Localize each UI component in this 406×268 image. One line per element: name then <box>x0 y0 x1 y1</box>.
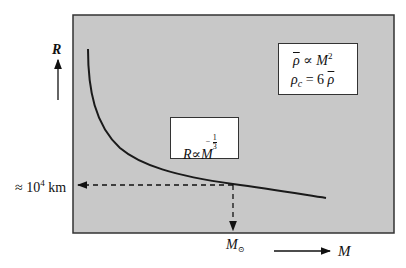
y-axis-label: R <box>52 43 61 57</box>
sun-subscript: ⊙ <box>238 245 245 254</box>
mean-density-relation: ρ ∝ M2 <box>293 52 332 68</box>
density-relation-box: ρ ∝ M2 ρc = 6 ρ <box>278 43 358 95</box>
mean-density-symbol: ρ <box>293 53 300 68</box>
x-axis-label: M <box>338 244 351 259</box>
approx-symbol: ≈ <box>15 180 23 195</box>
minus-sign: − <box>206 138 211 146</box>
solar-mass-symbol: M <box>226 237 238 252</box>
radius-relation-box: R∝M−13 <box>170 117 239 159</box>
exponent-fraction: −13 <box>213 134 217 151</box>
mass-symbol-2: M <box>201 147 213 162</box>
exponent-denominator: 3 <box>213 142 217 151</box>
radius-symbol: R <box>183 147 192 162</box>
equals-symbol: = <box>306 72 314 87</box>
central-subscript: c <box>298 78 302 89</box>
coefficient: 6 <box>317 72 324 87</box>
radius-value-label: ≈ 104 km <box>15 179 66 195</box>
mass-symbol: M <box>316 53 328 68</box>
mean-density-symbol-2: ρ <box>328 72 335 87</box>
radius-exponent: 4 <box>40 178 45 188</box>
central-density-symbol: ρ <box>291 72 298 87</box>
radius-mass-relation: R∝M−13 <box>183 134 217 162</box>
proportional-symbol-2: ∝ <box>192 147 201 162</box>
exponent-numerator: 1 <box>213 133 217 142</box>
mass-exponent: 2 <box>328 51 333 61</box>
proportional-symbol: ∝ <box>303 53 312 68</box>
radius-unit: km <box>48 180 66 195</box>
central-density-relation: ρc = 6 ρ <box>291 73 334 89</box>
radius-value: 10 <box>26 180 40 195</box>
solar-mass-label: M⊙ <box>226 238 244 254</box>
